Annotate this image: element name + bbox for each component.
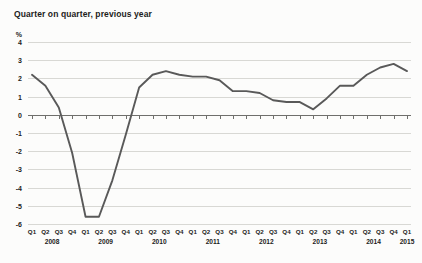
chart-root: Quarter on quarter, previous year % 4321… — [0, 0, 422, 263]
x-quarter-label: Q3 — [108, 228, 116, 235]
x-quarter-label: Q1 — [81, 228, 89, 235]
x-quarter-label: Q3 — [323, 228, 331, 235]
x-year-label-2015: 2015 — [400, 238, 415, 245]
x-quarter-label: Q1 — [403, 228, 411, 235]
x-quarter-label: Q4 — [389, 228, 397, 235]
y-tick-label--1: -1 — [16, 130, 22, 137]
x-quarter-label: Q2 — [41, 228, 49, 235]
series-polyline — [32, 64, 407, 217]
y-axis-labels: % 43210-1-2-3-4-5-6 — [0, 42, 26, 224]
chart-title: Quarter on quarter, previous year — [14, 9, 152, 19]
x-year-label-2008: 2008 — [45, 238, 60, 245]
y-tick-label--3: -3 — [16, 166, 22, 173]
y-tick-label-1: 1 — [18, 93, 22, 100]
y-tick-label-0: 0 — [18, 111, 22, 118]
gridline--6 — [28, 224, 411, 225]
x-year-label-2009: 2009 — [98, 238, 113, 245]
x-quarter-label: Q1 — [28, 228, 36, 235]
y-tick-label-3: 3 — [18, 57, 22, 64]
x-quarter-label: Q4 — [122, 228, 130, 235]
y-axis-unit-label: % — [16, 31, 22, 38]
x-quarter-label: Q4 — [229, 228, 237, 235]
gdp-growth-line-series — [28, 42, 411, 224]
y-tick-label--6: -6 — [16, 221, 22, 228]
x-quarter-label: Q2 — [309, 228, 317, 235]
x-quarter-label: Q1 — [189, 228, 197, 235]
x-axis-quarter-labels: Q1Q2Q3Q4Q1Q2Q3Q4Q1Q2Q3Q4Q1Q2Q3Q4Q1Q2Q3Q4… — [28, 228, 411, 238]
y-tick-label--4: -4 — [16, 184, 22, 191]
y-tick-label-2: 2 — [18, 75, 22, 82]
x-quarter-label: Q2 — [148, 228, 156, 235]
x-quarter-label: Q1 — [349, 228, 357, 235]
x-year-label-2014: 2014 — [366, 238, 381, 245]
x-quarter-label: Q3 — [215, 228, 223, 235]
x-quarter-label: Q4 — [282, 228, 290, 235]
x-quarter-label: Q2 — [256, 228, 264, 235]
x-quarter-label: Q1 — [242, 228, 250, 235]
x-quarter-label: Q3 — [376, 228, 384, 235]
y-tick-label--5: -5 — [16, 202, 22, 209]
x-quarter-label: Q2 — [202, 228, 210, 235]
x-quarter-label: Q4 — [68, 228, 76, 235]
x-axis-year-labels: 20082009201020112012201320142015 — [28, 238, 411, 250]
x-year-label-2011: 2011 — [206, 238, 220, 245]
plot-area — [28, 42, 411, 224]
x-quarter-label: Q4 — [175, 228, 183, 235]
x-quarter-label: Q1 — [135, 228, 143, 235]
x-year-label-2012: 2012 — [259, 238, 274, 245]
y-tick-label-4: 4 — [18, 39, 22, 46]
x-quarter-label: Q3 — [55, 228, 63, 235]
y-tick-label--2: -2 — [16, 148, 22, 155]
x-quarter-label: Q2 — [95, 228, 103, 235]
x-quarter-label: Q3 — [162, 228, 170, 235]
x-quarter-label: Q4 — [336, 228, 344, 235]
x-quarter-label: Q1 — [296, 228, 304, 235]
x-quarter-label: Q3 — [269, 228, 277, 235]
x-quarter-label: Q2 — [363, 228, 371, 235]
x-year-label-2013: 2013 — [313, 238, 328, 245]
x-year-label-2010: 2010 — [152, 238, 167, 245]
